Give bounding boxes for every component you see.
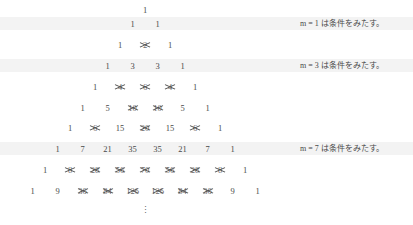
triangle-cell: 15 (108, 120, 133, 136)
triangle-cell: 1 (183, 79, 208, 95)
triangle-cell-struck: 8 (208, 162, 233, 178)
triangle-cell: 1 (95, 58, 120, 74)
triangle-cell: 1 (108, 37, 133, 53)
triangle-cell: 1 (233, 162, 258, 178)
triangle-cell: 1 (158, 37, 183, 53)
triangle-cell: 15 (158, 120, 183, 136)
triangle-row: 15101051 (0, 100, 290, 116)
triangle-cell-struck: 126 (120, 183, 145, 199)
triangle-row: 1615201561 (0, 120, 290, 136)
triangle-row: 14641 (0, 79, 290, 95)
row-condition-note: m = 1 は条件をみたす。 (300, 17, 384, 31)
triangle-cell-struck: 8 (58, 162, 83, 178)
triangle-cell: 1 (45, 141, 70, 157)
triangle-cell: 7 (195, 141, 220, 157)
triangle-cell: 1 (220, 141, 245, 157)
triangle-cell-struck: 36 (70, 183, 95, 199)
triangle-cell-struck: 126 (145, 183, 170, 199)
triangle-cell-struck: 6 (83, 120, 108, 136)
triangle-cell: 7 (70, 141, 95, 157)
triangle-row: 11 (0, 16, 290, 32)
triangle-cell: 1 (20, 183, 45, 199)
triangle-cell: 1 (58, 120, 83, 136)
triangle-cell-struck: 28 (183, 162, 208, 178)
triangle-cell-struck: 6 (133, 79, 158, 95)
triangle-cell-struck: 4 (158, 79, 183, 95)
triangle-cell: 21 (170, 141, 195, 157)
triangle-cell-struck: 56 (158, 162, 183, 178)
triangle-cell-struck: 2 (133, 37, 158, 53)
triangle-cell: 5 (95, 100, 120, 116)
triangle-cell-struck: 10 (145, 100, 170, 116)
triangle-cell-struck: 4 (108, 79, 133, 95)
triangle-cell: 1 (33, 162, 58, 178)
triangle-cell-struck: 56 (108, 162, 133, 178)
triangle-cell-struck: 20 (133, 120, 158, 136)
triangle-cell: 1 (145, 16, 170, 32)
triangle-row: 193684126126843691 (0, 183, 290, 199)
triangle-cell-struck: 10 (120, 100, 145, 116)
triangle-cell-struck: 36 (195, 183, 220, 199)
triangle-cell: 9 (45, 183, 70, 199)
triangle-cell-struck: 84 (170, 183, 195, 199)
triangle-row: 1331 (0, 58, 290, 74)
triangle-cell: 5 (170, 100, 195, 116)
triangle-cell: 1 (83, 79, 108, 95)
row-condition-note: m = 7 は条件をみたす。 (300, 142, 384, 156)
triangle-cell-struck: 6 (183, 120, 208, 136)
triangle-cell: 3 (145, 58, 170, 74)
triangle-cell: 35 (145, 141, 170, 157)
triangle-cell: 1 (195, 100, 220, 116)
triangle-cell: 1 (170, 58, 195, 74)
triangle-cell: 1 (120, 16, 145, 32)
pascals-triangle-figure: 111m = 1 は条件をみたす。1211331m = 3 は条件をみたす。14… (0, 0, 413, 225)
triangle-cell: 3 (120, 58, 145, 74)
triangle-cell: 1 (245, 183, 270, 199)
triangle-cell: 1 (70, 100, 95, 116)
triangle-cell-struck: 84 (95, 183, 120, 199)
row-condition-note: m = 3 は条件をみたす。 (300, 59, 384, 73)
triangle-row: 121 (0, 37, 290, 53)
triangle-cell: 35 (120, 141, 145, 157)
triangle-row: 172135352171 (0, 141, 290, 157)
triangle-cell: 9 (220, 183, 245, 199)
triangle-row: 18285670562881 (0, 162, 290, 178)
triangle-cell-struck: 70 (133, 162, 158, 178)
vertical-ellipsis: ⋮ (0, 205, 290, 215)
triangle-cell: 1 (208, 120, 233, 136)
triangle-cell: 21 (95, 141, 120, 157)
triangle-cell-struck: 28 (83, 162, 108, 178)
